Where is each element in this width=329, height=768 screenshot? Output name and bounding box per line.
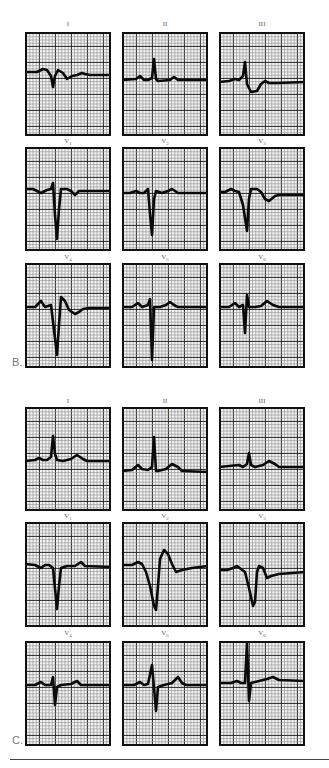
- lead-subscript: 4: [69, 257, 72, 262]
- lead-name: III: [259, 397, 266, 405]
- caption-divider: [10, 759, 329, 760]
- ecg-lead-panel: [25, 641, 111, 746]
- ecg-lead-panel: [25, 522, 111, 627]
- lead-subscript: 5: [166, 257, 169, 262]
- lead-label: I: [25, 20, 111, 28]
- lead-name: II: [163, 397, 168, 405]
- lead-name: II: [163, 20, 168, 28]
- lead-label: V4: [25, 629, 111, 640]
- lead-label: I: [25, 397, 111, 405]
- ecg-lead-panel: [219, 32, 305, 136]
- ecg-lead-panel: [25, 147, 111, 251]
- ecg-lead-panel: [25, 407, 111, 511]
- ecg-lead-panel: [122, 407, 208, 511]
- ecg-lead-panel: [122, 522, 208, 627]
- lead-label: V5: [122, 629, 208, 640]
- lead-subscript: 6: [263, 257, 266, 262]
- ecg-lead-panel: [219, 407, 305, 511]
- lead-subscript: 2: [166, 141, 169, 146]
- lead-subscript: 3: [263, 516, 266, 521]
- ecg-lead-panel: [122, 32, 208, 136]
- lead-subscript: 5: [166, 633, 169, 638]
- lead-subscript: 2: [166, 516, 169, 521]
- lead-label: III: [219, 20, 305, 28]
- ecg-lead-panel: [219, 641, 305, 746]
- lead-label: II: [122, 397, 208, 405]
- section-label-c: C.: [12, 734, 23, 746]
- ecg-lead-panel: [219, 263, 305, 368]
- lead-label: III: [219, 397, 305, 405]
- lead-label: V6: [219, 629, 305, 640]
- lead-name: III: [259, 20, 266, 28]
- ecg-lead-panel: [219, 522, 305, 627]
- ecg-lead-panel: [25, 32, 111, 136]
- lead-name: I: [67, 397, 69, 405]
- lead-subscript: 4: [69, 633, 72, 638]
- lead-subscript: 3: [263, 141, 266, 146]
- ecg-lead-panel: [122, 641, 208, 746]
- lead-label: II: [122, 20, 208, 28]
- lead-name: I: [67, 20, 69, 28]
- ecg-lead-panel: [122, 263, 208, 368]
- ecg-lead-panel: [25, 263, 111, 368]
- lead-subscript: 6: [263, 633, 266, 638]
- section-label-b: B.: [12, 356, 22, 368]
- lead-subscript: 1: [69, 141, 72, 146]
- ecg-lead-panel: [122, 147, 208, 251]
- ecg-lead-panel: [219, 147, 305, 251]
- lead-subscript: 1: [69, 516, 72, 521]
